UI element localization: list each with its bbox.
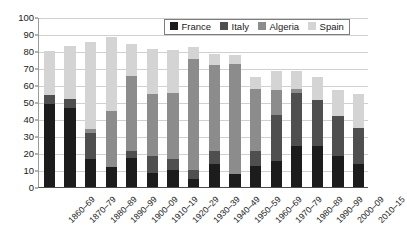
bar-segment-france — [167, 170, 178, 187]
bar-segment-spain — [271, 71, 282, 91]
legend-item-spain: Spain — [308, 22, 344, 32]
bar-segment-france — [209, 164, 220, 187]
bar-segment-algeria — [250, 89, 261, 151]
legend-label: Algeria — [270, 22, 300, 32]
x-axis: 1860–691870–791880–891890–991900–091910–… — [38, 189, 368, 236]
y-axis: 0102030405060708090100 — [0, 18, 34, 188]
bar-segment-algeria — [188, 59, 199, 170]
legend-swatch-icon — [220, 22, 228, 30]
bar-segment-spain — [106, 37, 117, 111]
legend-swatch-icon — [170, 22, 178, 30]
y-tick-label: 20 — [23, 149, 34, 159]
bar-group — [332, 90, 343, 187]
bar-segment-italy — [85, 133, 96, 159]
legend-swatch-icon — [258, 22, 266, 30]
bar-group — [291, 71, 302, 187]
bar-segment-france — [291, 146, 302, 187]
plot-area — [38, 18, 368, 188]
bar-segment-italy — [64, 99, 75, 108]
bar-segment-spain — [44, 51, 55, 95]
bar-segment-italy — [353, 128, 364, 164]
bar-group — [106, 37, 117, 187]
bar-segment-algeria — [209, 65, 220, 151]
bars-layer — [39, 18, 368, 187]
bar-segment-spain — [353, 94, 364, 129]
bar-group — [44, 51, 55, 187]
bar-group — [188, 47, 199, 187]
bar-segment-italy — [291, 93, 302, 147]
chart-legend: FranceItalyAlgeriaSpain — [164, 19, 350, 35]
bar-segment-spain — [250, 77, 261, 90]
bar-group — [126, 44, 137, 187]
bar-segment-france — [44, 104, 55, 187]
bar-segment-algeria — [147, 94, 158, 155]
bar-segment-france — [250, 166, 261, 187]
bar-segment-france — [188, 179, 199, 187]
y-tick-label: 40 — [23, 115, 34, 125]
bar-segment-algeria — [271, 90, 282, 115]
bar-segment-italy — [188, 170, 199, 179]
bar-segment-italy — [209, 151, 220, 164]
bar-segment-italy — [332, 116, 343, 155]
legend-item-france: France — [170, 22, 211, 32]
bar-segment-france — [271, 161, 282, 187]
y-tick-label: 10 — [23, 166, 34, 176]
bar-segment-spain — [64, 46, 75, 99]
legend-label: France — [182, 22, 212, 32]
bar-segment-spain — [229, 55, 240, 64]
bar-segment-france — [85, 159, 96, 187]
bar-segment-spain — [332, 90, 343, 116]
bar-segment-italy — [167, 159, 178, 170]
bar-segment-spain — [147, 49, 158, 94]
bar-segment-algeria — [106, 111, 117, 167]
bar-segment-france — [147, 173, 158, 187]
bar-segment-spain — [167, 50, 178, 93]
legend-swatch-icon — [308, 22, 316, 30]
bar-group — [353, 94, 364, 187]
bar-segment-algeria — [229, 64, 240, 175]
bar-segment-france — [64, 108, 75, 187]
legend-label: Italy — [232, 22, 249, 32]
legend-label: Spain — [320, 22, 344, 32]
bar-segment-france — [332, 156, 343, 187]
bar-segment-spain — [209, 54, 220, 66]
bar-segment-france — [229, 174, 240, 187]
bar-group — [147, 49, 158, 187]
bar-group — [167, 50, 178, 187]
bar-segment-algeria — [167, 93, 178, 159]
y-tick-label: 90 — [23, 30, 34, 40]
bar-group — [229, 55, 240, 187]
bar-segment-spain — [312, 77, 323, 101]
bar-segment-italy — [44, 95, 55, 104]
y-tick-label: 30 — [23, 132, 34, 142]
bar-segment-algeria — [126, 76, 137, 152]
bar-segment-italy — [250, 151, 261, 165]
bar-group — [64, 46, 75, 187]
bar-segment-france — [126, 158, 137, 187]
bar-segment-spain — [188, 47, 199, 59]
bar-segment-italy — [271, 115, 282, 161]
legend-item-italy: Italy — [220, 22, 249, 32]
y-tick-label: 50 — [23, 98, 34, 108]
bar-group — [312, 77, 323, 187]
bar-group — [209, 54, 220, 187]
bar-segment-france — [312, 146, 323, 187]
bar-segment-france — [106, 167, 117, 187]
bar-segment-italy — [312, 100, 323, 146]
legend-item-algeria: Algeria — [258, 22, 299, 32]
bar-segment-italy — [126, 151, 137, 158]
bar-group — [271, 71, 282, 187]
y-tick-label: 60 — [23, 81, 34, 91]
y-tick-label: 0 — [29, 183, 34, 193]
y-tick-label: 100 — [18, 13, 34, 23]
bar-group — [85, 42, 96, 187]
y-tick-label: 70 — [23, 64, 34, 74]
y-tick-label: 80 — [23, 47, 34, 57]
bar-segment-spain — [85, 42, 96, 130]
bar-segment-italy — [147, 156, 158, 174]
bar-segment-spain — [291, 71, 302, 90]
bar-group — [250, 77, 261, 187]
bar-segment-france — [353, 164, 364, 187]
bar-segment-spain — [126, 44, 137, 75]
